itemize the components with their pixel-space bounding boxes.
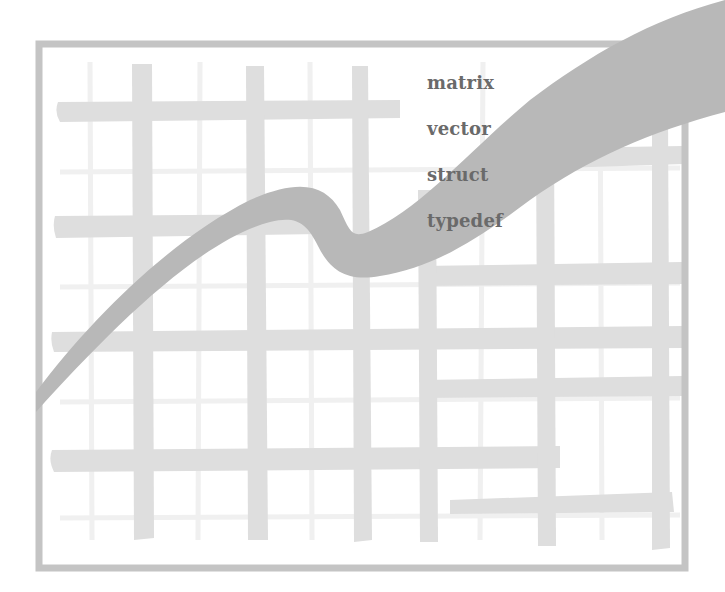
label-matrix: matrix — [427, 70, 503, 116]
grid-chart-graphic — [0, 0, 725, 592]
term-labels: matrix vector struct typedef — [427, 70, 503, 254]
illustration: matrix vector struct typedef — [0, 0, 725, 592]
label-struct: struct — [427, 162, 503, 208]
label-vector: vector — [427, 116, 503, 162]
label-typedef: typedef — [427, 208, 503, 254]
